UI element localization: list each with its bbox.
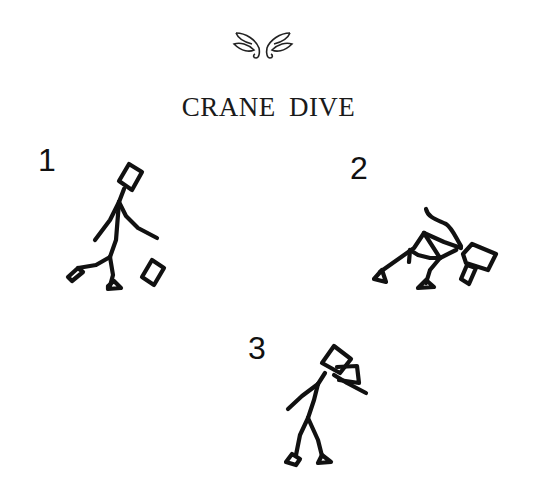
stick-figure-3-icon (0, 0, 537, 484)
